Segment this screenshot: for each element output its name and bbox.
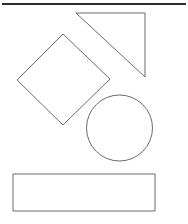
rectangle-shape xyxy=(13,174,155,211)
figure-canvas xyxy=(0,0,188,224)
triangle-shape xyxy=(76,13,145,77)
circle-shape xyxy=(87,95,153,161)
diamond-shape xyxy=(17,34,110,125)
shapes-svg xyxy=(0,0,188,224)
